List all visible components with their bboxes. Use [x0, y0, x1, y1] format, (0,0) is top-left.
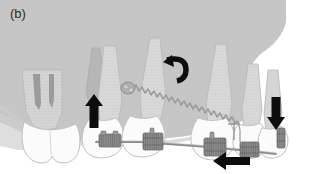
bonded-traction-button: [121, 82, 135, 94]
dental-illustration-svg: [0, 0, 311, 174]
bracket-5: [277, 128, 285, 148]
bracket-4: [240, 142, 259, 157]
panel-label: (b): [10, 6, 26, 21]
root-canal-filling-distal: [49, 74, 54, 108]
figure-panel-b: (b): [0, 0, 311, 174]
